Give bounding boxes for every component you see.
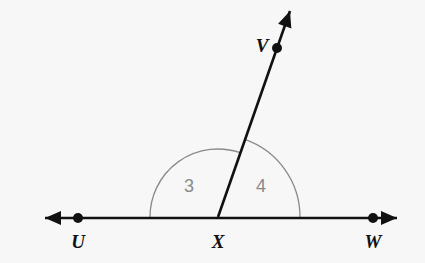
- point-dot-v: [272, 43, 282, 53]
- angle-label-3: 3: [184, 177, 194, 195]
- point-label-w: W: [365, 232, 382, 251]
- point-label-x: X: [212, 232, 225, 251]
- arrow-head-w-icon: [381, 211, 397, 225]
- point-dot-w: [368, 213, 378, 223]
- angle-arc-3: [150, 149, 240, 217]
- ray-xv: [218, 11, 290, 217]
- diagram-canvas: U X W V 3 4: [0, 0, 425, 263]
- point-label-u: U: [71, 232, 85, 251]
- arrow-head-v-icon: [278, 11, 291, 28]
- geometry-figure-svg: [0, 0, 425, 263]
- angle-arc-4: [245, 139, 300, 217]
- arrow-head-u-icon: [45, 211, 61, 225]
- point-label-v: V: [256, 36, 269, 55]
- angle-label-4: 4: [256, 177, 266, 195]
- point-dot-u: [73, 213, 83, 223]
